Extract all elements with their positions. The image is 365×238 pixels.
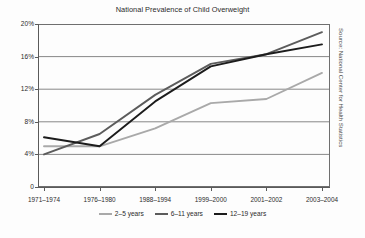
legend-label: 2–5 years — [115, 210, 144, 217]
series-line — [44, 44, 322, 146]
chart-figure: National Prevalence of Child Overweight … — [0, 0, 365, 238]
legend-swatch-icon — [99, 213, 112, 215]
legend-label: 6–11 years — [171, 210, 203, 217]
chart-title: National Prevalence of Child Overweight — [0, 5, 365, 14]
x-tick-label: 1971–1974 — [28, 196, 60, 203]
y-axis-line — [38, 24, 39, 187]
y-tick-label: 20% — [21, 20, 34, 27]
y-tick-mark — [35, 154, 38, 155]
legend-label: 12–19 years — [230, 210, 266, 217]
x-tick-mark — [322, 188, 323, 191]
y-tick-label: 12% — [21, 85, 34, 92]
x-tick-label: 1988–1994 — [139, 196, 171, 203]
x-tick-mark — [266, 188, 267, 191]
x-tick-label: 1976–1980 — [84, 196, 116, 203]
x-tick-mark — [211, 188, 212, 191]
y-tick-label: 4% — [24, 150, 34, 157]
legend-item[interactable]: 12–19 years — [214, 210, 266, 217]
x-tick-label: 1999–2000 — [195, 196, 227, 203]
y-tick-label: 8% — [24, 118, 34, 125]
plot-border — [39, 25, 330, 187]
y-tick-mark — [35, 24, 38, 25]
y-tick-label: 0 — [30, 183, 34, 190]
y-tick-label: 16% — [21, 53, 34, 60]
x-tick-mark — [44, 188, 45, 191]
y-tick-mark — [35, 89, 38, 90]
line-chart-svg — [38, 24, 330, 187]
x-tick-label: 2003–2004 — [306, 196, 338, 203]
x-axis-line — [38, 187, 330, 188]
x-tick-mark — [155, 188, 156, 191]
legend-swatch-icon — [214, 213, 227, 215]
x-tick-mark — [100, 188, 101, 191]
x-tick-label: 2001–2002 — [250, 196, 282, 203]
y-tick-mark — [35, 57, 38, 58]
series-lines — [44, 32, 322, 154]
plot-area — [38, 24, 330, 187]
legend-item[interactable]: 2–5 years — [99, 210, 144, 217]
source-note: Source: National Center for Health Stati… — [338, 28, 349, 198]
legend-item[interactable]: 6–11 years — [155, 210, 203, 217]
chart-legend: 2–5 years6–11 years12–19 years — [0, 210, 365, 217]
y-tick-mark — [35, 122, 38, 123]
x-axis-labels: 1971–19741976–19801988–19941999–20002001… — [38, 191, 330, 205]
legend-swatch-icon — [155, 213, 168, 215]
